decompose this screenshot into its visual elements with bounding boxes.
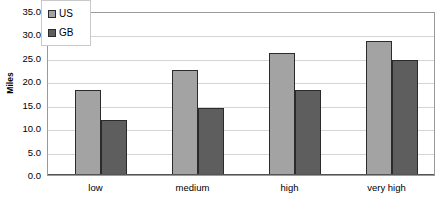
bar-us-low [75,90,101,175]
x-axis-baseline [48,174,434,175]
x-tick-label: high [241,182,338,193]
y-tick-label: 5.0 [0,148,41,158]
bar-gb-medium [198,108,224,175]
bars-layer [48,13,434,175]
y-tick-label: 35.0 [0,7,41,17]
plot-area [47,12,435,176]
legend-swatch-gb-icon [48,29,56,37]
bar-group [145,13,242,175]
bar-gb-low [101,120,127,175]
y-tick-label: 30.0 [0,30,41,40]
legend: US GB [41,0,91,46]
bar-group [242,13,339,175]
bar-us-medium [172,70,198,175]
bar-us-high [269,53,295,175]
y-axis-tick-labels: 35.030.025.020.015.010.05.00.0 [0,0,44,207]
bar-chart: Miles 35.030.025.020.015.010.05.00.0 US … [0,0,439,207]
x-tick-label: medium [144,182,241,193]
bar-gb-very-high [392,60,418,175]
legend-swatch-us-icon [48,10,56,18]
legend-item-us: US [48,9,73,19]
y-tick-label: 0.0 [0,171,41,181]
legend-label-us: US [59,9,73,19]
bar-us-very-high [366,41,392,175]
x-axis-category-labels: lowmediumhighvery high [47,182,435,202]
legend-item-gb: GB [48,28,73,38]
y-tick-label: 10.0 [0,124,41,134]
bar-group [339,13,436,175]
legend-label-gb: GB [59,28,73,38]
x-tick-label: very high [338,182,435,193]
x-tick-label: low [47,182,144,193]
y-tick-label: 20.0 [0,77,41,87]
y-tick-label: 25.0 [0,54,41,64]
bar-gb-high [295,90,321,175]
y-tick-label: 15.0 [0,101,41,111]
